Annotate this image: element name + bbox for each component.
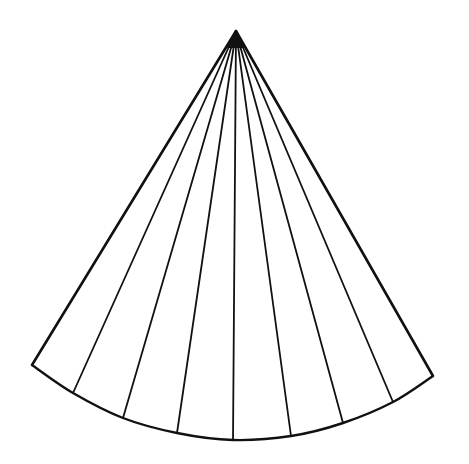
sector-edge-line xyxy=(32,31,236,365)
sector-division-line xyxy=(233,31,236,440)
sector-division-line xyxy=(236,31,343,423)
sector-division-line xyxy=(236,31,291,436)
sector-division-line xyxy=(236,31,393,402)
sector-division-line xyxy=(73,31,236,393)
sector-rays xyxy=(32,31,433,440)
diagram-canvas xyxy=(0,0,469,464)
sector-division-line xyxy=(177,31,236,433)
sector-division-line xyxy=(123,31,236,418)
cone-sector-figure xyxy=(0,0,469,464)
sector-edge-line xyxy=(236,31,433,376)
